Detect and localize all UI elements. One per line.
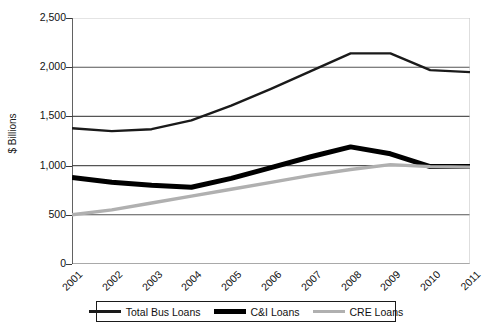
x-tick-label: 2005 bbox=[214, 268, 244, 298]
legend-label: Total Bus Loans bbox=[126, 306, 201, 318]
x-tick-label: 2003 bbox=[134, 268, 164, 298]
chart-legend: Total Bus LoansC&I LoansCRE Loans bbox=[96, 301, 396, 322]
x-tick-label: 2011 bbox=[453, 268, 483, 298]
y-tick-label: 500 bbox=[14, 209, 66, 220]
x-tick-label: 2006 bbox=[254, 268, 284, 298]
x-tick-label: 2007 bbox=[294, 268, 324, 298]
legend-item[interactable]: C&I Loans bbox=[214, 306, 300, 318]
legend-swatch-icon bbox=[313, 310, 345, 313]
series-line bbox=[72, 165, 470, 215]
x-tick-label: 2009 bbox=[373, 268, 403, 298]
x-tick-label: 2008 bbox=[333, 268, 363, 298]
x-tick-label: 2004 bbox=[174, 268, 204, 298]
y-tick-label: 0 bbox=[14, 258, 66, 269]
legend-label: CRE Loans bbox=[350, 306, 404, 318]
plot-svg bbox=[72, 18, 470, 264]
y-tick-label: 1,000 bbox=[14, 160, 66, 171]
legend-swatch-icon bbox=[89, 310, 121, 312]
x-tick-label: 2001 bbox=[55, 268, 85, 298]
x-tick-label: 2010 bbox=[413, 268, 443, 298]
y-tick-mark bbox=[66, 264, 72, 265]
line-chart: $ Billions 05001,0001,5002,0002,500 2001… bbox=[0, 0, 487, 331]
y-tick-label: 1,500 bbox=[14, 110, 66, 121]
legend-item[interactable]: CRE Loans bbox=[313, 306, 404, 318]
x-tick-label: 2002 bbox=[95, 268, 125, 298]
legend-label: C&I Loans bbox=[251, 306, 300, 318]
legend-swatch-icon bbox=[214, 309, 246, 314]
y-tick-label: 2,000 bbox=[14, 61, 66, 72]
y-tick-label: 2,500 bbox=[14, 12, 66, 23]
series-line bbox=[72, 53, 470, 131]
legend-item[interactable]: Total Bus Loans bbox=[89, 306, 201, 318]
plot-area bbox=[72, 18, 470, 264]
